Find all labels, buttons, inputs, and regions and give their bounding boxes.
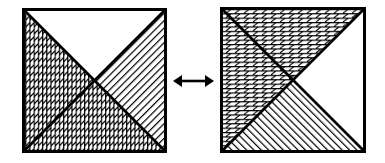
- double-arrow-icon: [173, 75, 214, 87]
- diagram-canvas: [0, 0, 385, 163]
- left-square: [23, 9, 166, 152]
- right-square: [221, 8, 365, 152]
